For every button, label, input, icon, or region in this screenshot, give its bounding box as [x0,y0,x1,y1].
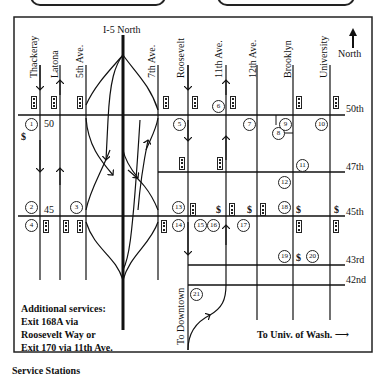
traffic-light-icon [179,157,185,170]
location-16: 16 [207,219,220,232]
traffic-light-icon [31,96,37,109]
ramp-west-loop [86,118,113,175]
location-10: 10 [315,118,328,131]
ramp-east-up [138,140,148,210]
location-19: 19 [278,250,291,263]
traffic-light-icon [77,220,83,233]
street-label-5th: 5th Ave. [75,45,85,78]
street-label-brooklyn: Brooklyn [283,40,293,78]
notes-line-3: Roosevelt Way or [21,330,96,340]
street-label-university: University [319,36,329,78]
exit-label-45: 45 [44,205,54,215]
traffic-light-icon [296,96,302,109]
ramp-exit-50-west [86,55,123,105]
street-label-42nd: 42nd [346,275,366,285]
location-11: 11 [296,159,309,172]
ramp-east-lower [128,170,158,210]
traffic-light-icon [192,96,198,109]
dollar-icon: $ [296,253,301,263]
freeway-label: I-5 North [103,25,141,35]
dollar-icon: $ [21,132,26,142]
to-uw-label: To Univ. of Wash. ⟶ [257,330,349,340]
traffic-light-icon [161,220,167,233]
location-7: 7 [243,118,256,131]
traffic-light-icon [51,96,57,109]
street-label-latona: Latona [50,50,60,78]
traffic-light-icon [333,96,339,109]
street-label-12th: 12th Ave. [248,40,258,78]
traffic-light-icon [63,220,69,233]
traffic-light-icon [260,203,266,216]
dollar-icon: $ [296,205,301,215]
ramp-south-west [86,222,123,280]
traffic-light-icon [190,203,196,216]
location-12: 12 [278,176,291,189]
ramp-west-lower [86,150,110,210]
street-label-43rd: 43rd [346,255,364,265]
ramp-east-merge [123,150,138,178]
dollar-icon: $ [216,205,221,215]
location-4: 4 [25,219,38,232]
location-3: 3 [70,201,83,214]
location-20: 20 [306,250,319,263]
traffic-light-icon [163,96,169,109]
location-6: 6 [212,100,225,113]
location-21: 21 [190,288,203,301]
ramp-east-loop [146,118,158,150]
location-9: 9 [279,118,292,131]
street-label-50th: 50th [346,104,364,114]
route-to-roosevelt [188,315,210,350]
traffic-light-icon [217,157,223,170]
traffic-light-icon [229,203,235,216]
location-2: 2 [25,201,38,214]
location-15: 15 [194,219,207,232]
notes-line-2: Exit 168A via [21,317,78,327]
to-downtown-label: To Downtown [176,288,186,345]
street-label-thackeray: Thackeray [29,36,39,78]
street-label-47th: 47th [346,162,364,172]
traffic-light-icon [77,96,83,109]
ramp-south-mid [123,120,140,270]
traffic-light-icon [230,96,236,109]
street-label-11th: 11th Ave. [214,40,224,78]
traffic-light-icon [333,220,339,233]
street-label-7th: 7th Ave. [147,45,157,78]
location-18: 18 [278,201,291,214]
dollar-icon: $ [334,205,339,215]
location-13: 13 [172,201,185,214]
traffic-light-icon [43,220,49,233]
notes-line-1: Additional services: [21,304,106,314]
location-1: 1 [25,118,38,131]
exit-label-50: 50 [44,119,54,129]
location-17: 17 [237,219,250,232]
street-label-45th: 45th [346,207,364,217]
traffic-light-icon [296,220,302,233]
location-5: 5 [173,118,186,131]
dollar-icon: $ [247,205,252,215]
map-caption: Service Stations [12,366,80,376]
location-14: 14 [172,219,185,232]
street-label-roosevelt: Roosevelt [176,38,186,78]
notes-line-4: Exit 170 via 11th Ave. [21,343,113,353]
north-label: North [338,49,361,59]
